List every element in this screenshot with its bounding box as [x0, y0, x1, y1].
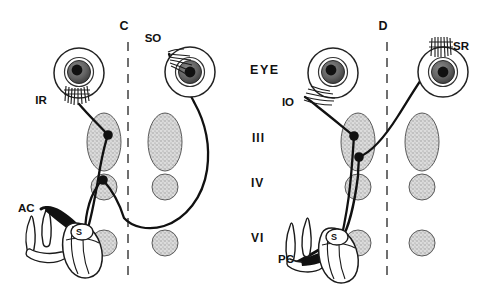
- nucleus-iii-right-c: [148, 113, 182, 171]
- synapse-iii-d: [354, 152, 364, 162]
- eye-left-d: [304, 48, 358, 105]
- pupil-right-d: [438, 67, 449, 78]
- synapse-iv-c: [98, 175, 108, 185]
- canal-ac-arc: [26, 249, 66, 263]
- pupil-left-d: [326, 65, 337, 76]
- muscle-label-so: SO: [145, 32, 162, 44]
- nucleus-iv-right-c: [152, 174, 178, 200]
- synapses-group: [82, 130, 364, 244]
- canal-ac-limb-1: [26, 216, 35, 253]
- eye-right-c: [165, 47, 215, 97]
- nucleus-iii-left-c: [87, 113, 121, 171]
- nucleus-iv-right-d: [409, 174, 435, 200]
- muscle-label-ir: IR: [35, 94, 47, 106]
- midline-label-c: C: [119, 19, 128, 33]
- anatomical-figure: C D EYE III IV VI IR SO IO SR AC PC S S: [0, 0, 484, 301]
- diagram-canvas: C D EYE III IV VI IR SO IO SR AC PC S S: [0, 0, 484, 301]
- muscle-label-io: IO: [282, 96, 294, 108]
- synapse-ir: [103, 130, 113, 140]
- row-label-iii: III: [252, 131, 265, 145]
- nucleus-label-s-left: S: [76, 227, 82, 237]
- pupil-left-c: [72, 65, 83, 76]
- synapse-io-d: [349, 131, 359, 141]
- row-label-eye: EYE: [250, 63, 280, 77]
- canal-label-pc: PC: [278, 253, 294, 265]
- eye-left-c: [54, 48, 104, 105]
- nucleus-vi-right-d: [409, 230, 435, 256]
- midline-label-d: D: [378, 19, 387, 33]
- row-label-vi: VI: [251, 231, 264, 245]
- muscle-label-sr: SR: [453, 40, 470, 52]
- nucleus-vi-right-c: [152, 230, 178, 256]
- nucleus-label-s-right: S: [331, 232, 337, 242]
- row-label-iv: IV: [251, 176, 264, 190]
- nucleus-iii-right-d: [405, 113, 439, 171]
- pupil-right-c: [185, 67, 196, 78]
- canal-pc-limb-2: [302, 218, 311, 257]
- canal-label-ac: AC: [18, 202, 35, 214]
